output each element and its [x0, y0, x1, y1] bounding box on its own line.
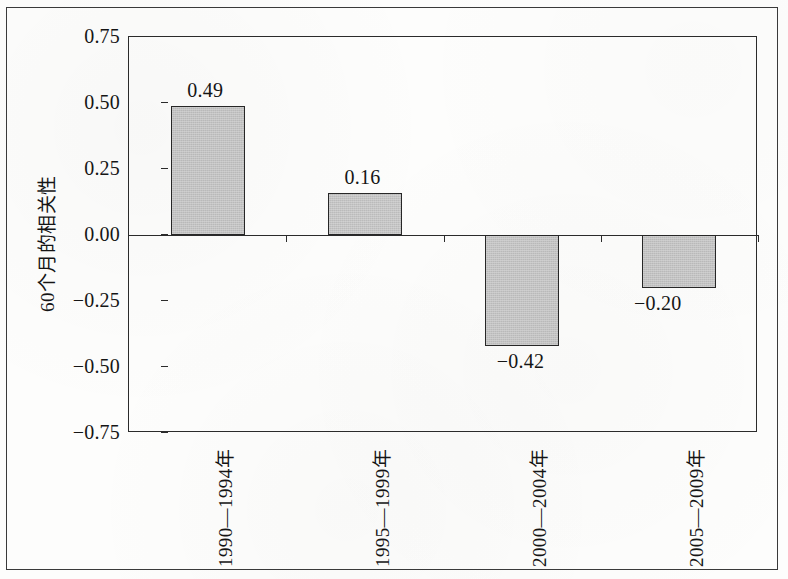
y-tick-mark	[161, 432, 168, 433]
bar	[171, 106, 245, 235]
bar-value-label: 0.49	[187, 80, 223, 100]
bar	[485, 235, 559, 346]
x-tick-mark	[758, 235, 759, 242]
x-tick-mark	[444, 235, 445, 242]
bar	[642, 235, 716, 288]
bar-texture	[329, 194, 401, 234]
y-tick-label: −0.75	[73, 422, 120, 442]
bar-value-label: −0.42	[497, 351, 545, 371]
y-tick-label: 0.25	[84, 158, 120, 178]
bar	[328, 193, 402, 235]
x-axis-label: 1990—1994年	[216, 449, 235, 567]
bar-texture	[643, 236, 715, 287]
x-axis-label: 2005—2009年	[687, 449, 706, 567]
y-tick-label: 0.00	[84, 224, 120, 244]
y-tick-label: −0.50	[73, 356, 120, 376]
figure-page: 60个月的相关性 0.750.500.250.00−0.25−0.50−0.75…	[0, 0, 788, 579]
bar-value-label: −0.20	[634, 293, 682, 313]
y-tick-label: 0.50	[84, 92, 120, 112]
x-axis-label: 1995—1999年	[373, 449, 392, 567]
bar-texture	[486, 236, 558, 345]
y-tick-label: 0.75	[84, 26, 120, 46]
y-axis-ticks: 0.750.500.250.00−0.25−0.50−0.75	[40, 36, 120, 432]
bar-value-label: 0.16	[344, 167, 380, 187]
plot-area: 0.490.16−0.42−0.20	[128, 36, 757, 432]
bar-texture	[172, 107, 244, 234]
y-tick-label: −0.25	[73, 290, 120, 310]
x-tick-mark	[286, 235, 287, 242]
x-tick-mark	[601, 235, 602, 242]
x-axis-label: 2000—2004年	[530, 449, 549, 567]
